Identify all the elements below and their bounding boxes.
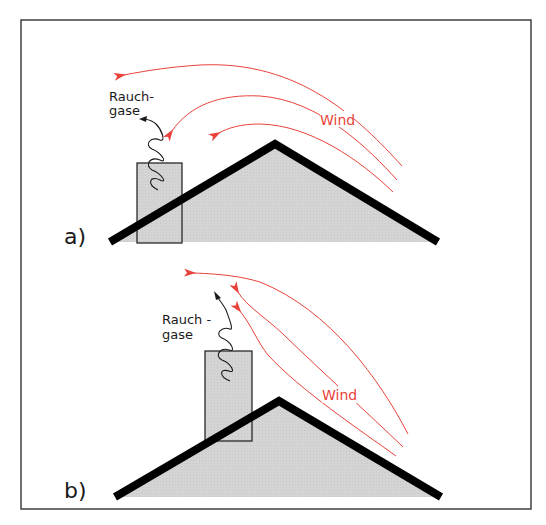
panel-label-b: b) [64, 478, 87, 503]
chimney-draft-diagram: Rauch- gase Wind a) Rauch - gase [0, 0, 546, 525]
wind-label-b: Wind [322, 387, 357, 403]
smoke-label-b-line1: Rauch - [162, 312, 211, 327]
wind-label-a: Wind [320, 112, 355, 128]
roof-b [115, 400, 441, 497]
smoke-label-a-line1: Rauch- [109, 89, 154, 104]
panel-b: Rauch - gase Wind b) [64, 273, 441, 503]
panel-a: Rauch- gase Wind a) [64, 65, 438, 249]
smoke-label-a-line2: gase [109, 103, 140, 118]
panel-label-a: a) [64, 224, 86, 249]
smoke-label-b-line2: gase [162, 327, 193, 342]
